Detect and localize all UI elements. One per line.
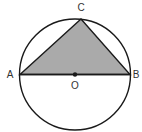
shaded-triangle-acb [20, 19, 130, 75]
geometry-diagram: A B C O [0, 0, 142, 132]
label-b: B [133, 69, 140, 80]
label-c: C [77, 2, 84, 13]
label-a: A [7, 69, 14, 80]
center-point-o [73, 72, 77, 76]
label-o: O [71, 80, 79, 91]
